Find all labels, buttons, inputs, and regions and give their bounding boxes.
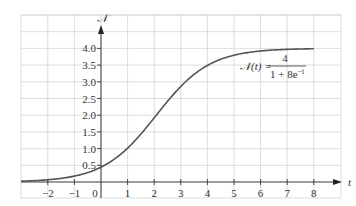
- y-tick-label: 2.5: [82, 93, 96, 105]
- x-tick-label: −1: [69, 187, 81, 199]
- formula-denominator-base: 1 + 8e: [270, 68, 298, 80]
- x-tick-label: 4: [205, 187, 211, 199]
- x-tick-label: 6: [258, 187, 264, 199]
- y-tick-labels: 0.51.01.52.02.53.03.54.0: [82, 42, 96, 171]
- y-tick-label: 3.5: [82, 59, 96, 71]
- x-tick-label: 3: [178, 187, 184, 199]
- y-tick-label: 1.5: [82, 126, 96, 138]
- x-tick-label: 0: [92, 187, 98, 199]
- x-tick-labels: −2−1012345678: [42, 187, 317, 199]
- x-tick-label: 7: [284, 187, 290, 199]
- y-tick-label: 3.0: [82, 76, 96, 88]
- formula-lhs: 𝒩(t) =: [240, 60, 272, 73]
- formula-annotation: 𝒩(t) = 4 1 + 8e−t: [240, 52, 306, 80]
- formula-denominator: 1 + 8e−t: [270, 67, 305, 80]
- formula-numerator: 4: [282, 52, 288, 64]
- x-tick-label: 2: [151, 187, 157, 199]
- x-tick-label: 8: [311, 187, 317, 199]
- x-axis-label: t: [348, 176, 352, 188]
- y-tick-label: 4.0: [82, 42, 96, 54]
- x-tick-label: 1: [125, 187, 131, 199]
- x-tick-label: −2: [42, 187, 54, 199]
- y-axis-arrow-icon: [98, 25, 104, 34]
- y-tick-label: 2.0: [82, 109, 96, 121]
- y-axis-label: 𝒩: [97, 12, 111, 24]
- grid: [21, 15, 341, 198]
- formula-denominator-exp: −t: [298, 67, 306, 76]
- x-tick-label: 5: [231, 187, 237, 199]
- axes: [21, 25, 342, 198]
- y-tick-label: 1.0: [82, 143, 96, 155]
- chart: −2−1012345678 0.51.01.52.02.53.03.54.0 𝒩…: [0, 0, 356, 206]
